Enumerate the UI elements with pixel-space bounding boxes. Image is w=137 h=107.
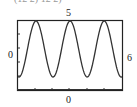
sine-curve [18, 21, 122, 77]
plot-frame [18, 21, 123, 91]
y-ticks [18, 34, 20, 76]
left-label: 0 [8, 50, 13, 60]
right-label: 6 [127, 53, 132, 63]
bottom-label: 0 [66, 95, 71, 105]
top-label: 5 [66, 8, 71, 18]
